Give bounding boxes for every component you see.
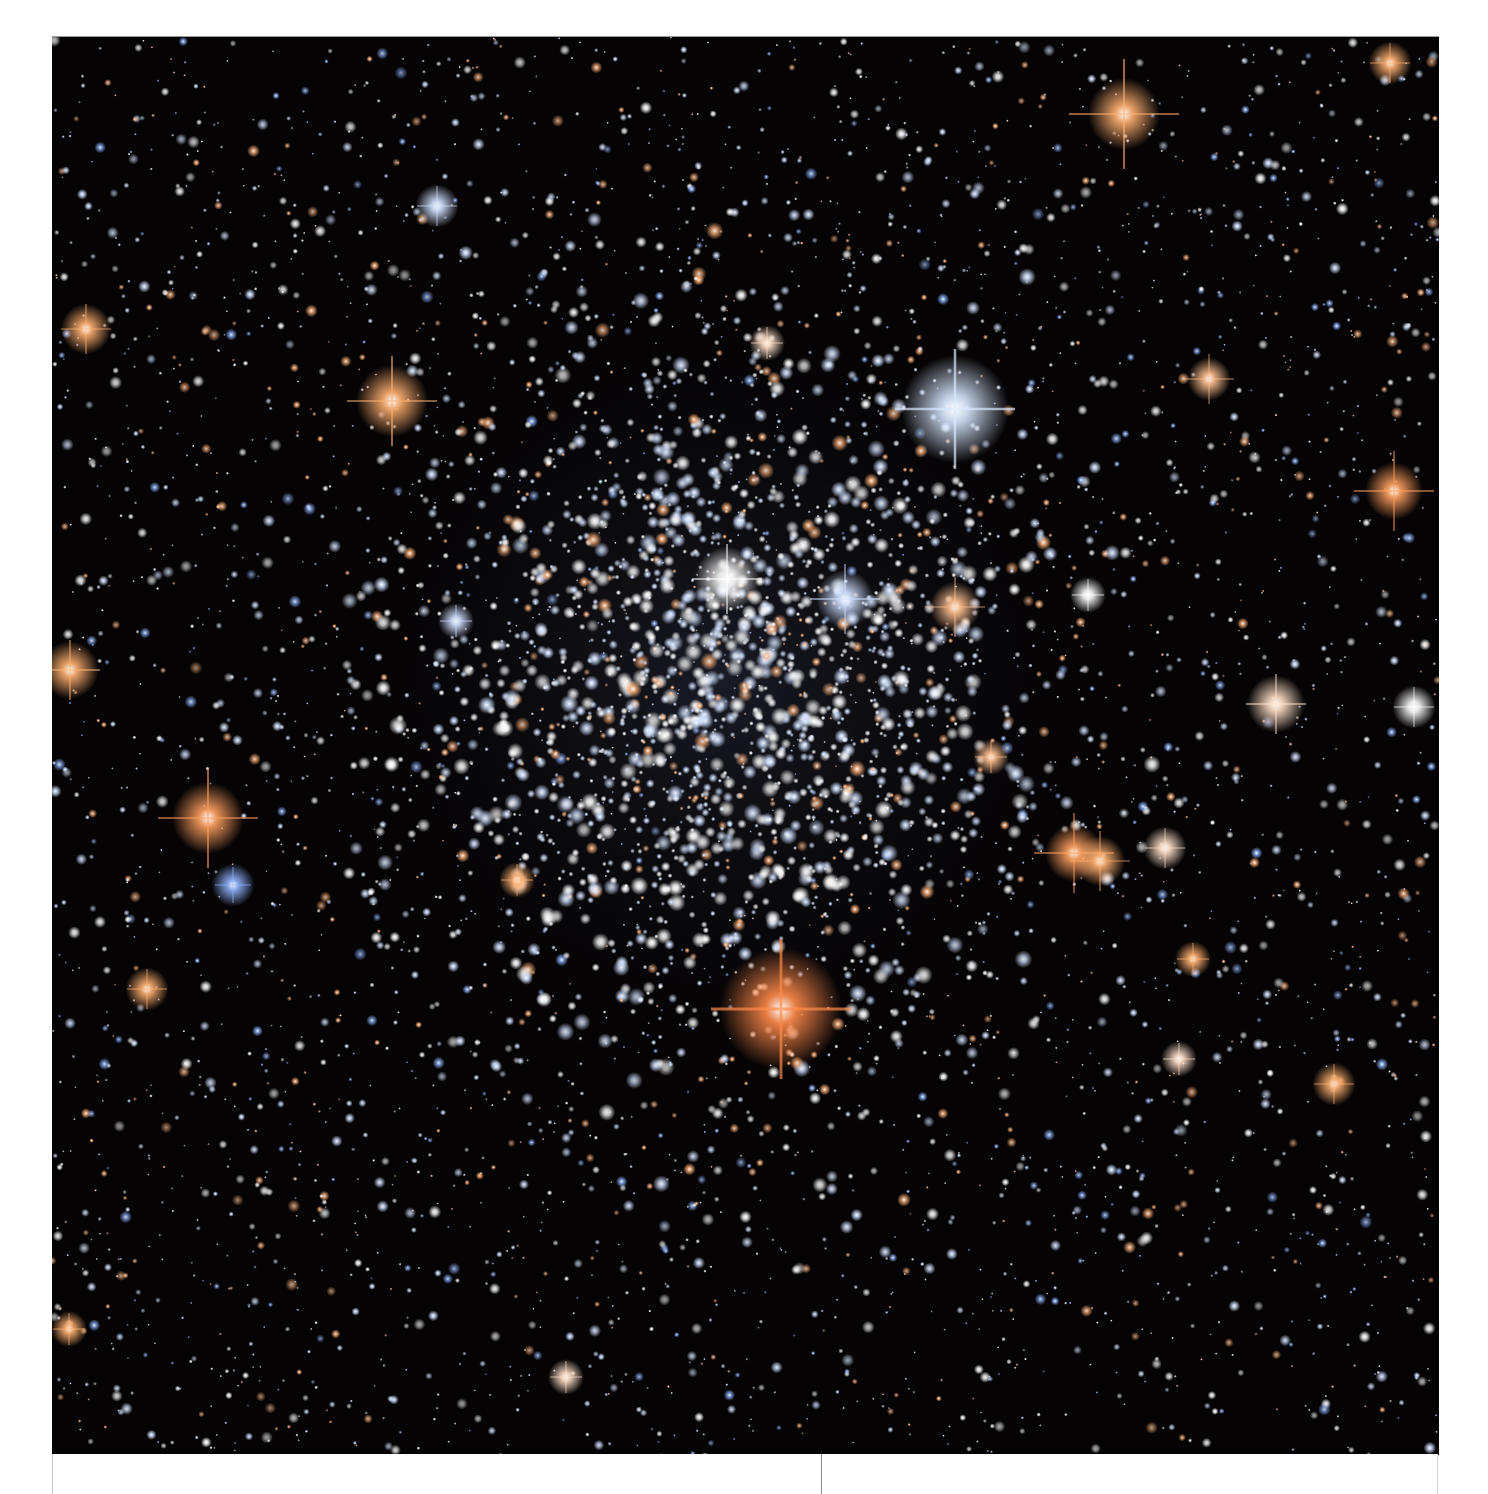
star-cluster-photo [52,36,1439,1455]
bottom-white-strip [52,1454,1438,1494]
starfield-canvas [52,37,1439,1455]
vertical-divider [821,1454,822,1494]
page [0,0,1488,1494]
